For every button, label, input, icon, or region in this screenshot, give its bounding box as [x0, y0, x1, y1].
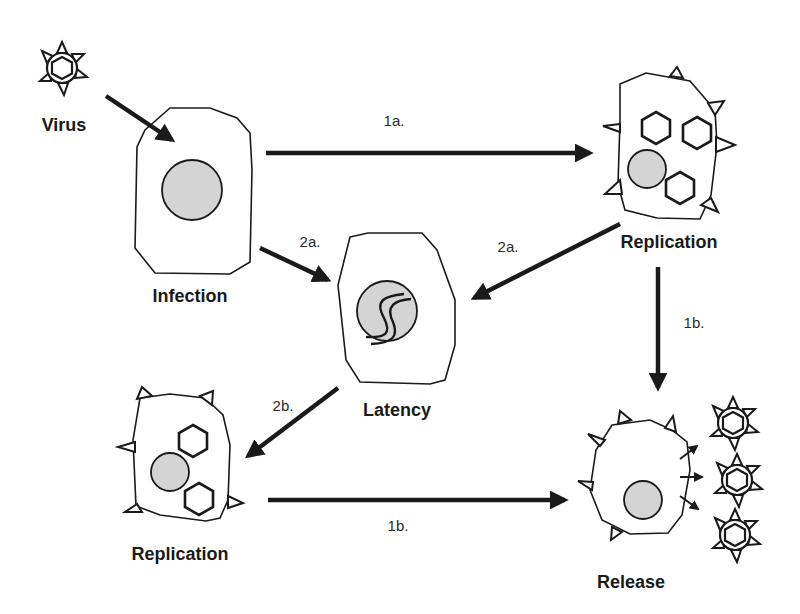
edge-label-1b-horizontal: 1b. [388, 517, 409, 534]
arrow-2a-right [474, 224, 620, 298]
infection-label: Infection [153, 286, 228, 307]
replication-top-cell [603, 67, 735, 219]
nucleus [162, 160, 222, 220]
virus-icon [40, 42, 87, 95]
replication-bottom-label: Replication [131, 544, 228, 565]
edge-label-2a-left: 2a. [300, 233, 321, 250]
viral-lifecycle-diagram: Virus Infection Replication Latency Repl… [0, 0, 800, 614]
replication-top-label: Replication [620, 232, 717, 253]
infection-cell [135, 108, 252, 274]
virus-label: Virus [42, 115, 87, 136]
replication-bottom-cell [118, 387, 243, 521]
edge-label-1b-vertical: 1b. [684, 314, 705, 331]
arrow-2a-left [260, 248, 328, 280]
release-cell [578, 397, 762, 562]
edge-label-2b: 2b. [273, 397, 294, 414]
latency-cell [338, 233, 455, 384]
release-label: Release [597, 572, 665, 593]
edge-label-2a-right: 2a. [498, 238, 519, 255]
edge-label-1a: 1a. [384, 112, 405, 129]
latency-label: Latency [363, 400, 431, 421]
